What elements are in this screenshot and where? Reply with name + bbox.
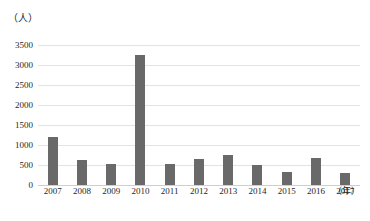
bar-slot [38,45,67,185]
x-axis-tick-label: 2016 [301,186,330,197]
bar[interactable] [48,137,58,185]
bar-slot [67,45,96,185]
x-axis-tick-label: 2012 [184,186,213,197]
x-axis-tick-label: 2011 [155,186,184,197]
x-axis-tick-label: 2008 [67,186,96,197]
y-axis-tick-label: 0 [29,181,34,190]
bar-slot [331,45,360,185]
bar[interactable] [194,159,204,185]
plot-area: 0500100015002000250030003500 [38,45,360,185]
y-axis-tick-label: 1500 [15,121,33,130]
bar[interactable] [311,158,321,185]
bar-slot [184,45,213,185]
y-axis-tick-label: 500 [20,161,34,170]
y-axis-tick-label: 2000 [15,101,33,110]
bar[interactable] [165,164,175,185]
bar-slot [301,45,330,185]
bar[interactable] [340,173,350,185]
x-axis-tick-label: 2014 [243,186,272,197]
bar[interactable] [223,155,233,185]
bar[interactable] [106,164,116,185]
x-axis-tick-label: 2010 [126,186,155,197]
bar-slot [97,45,126,185]
y-axis-tick-label: 1000 [15,141,33,150]
bar-chart: （人） 0500100015002000250030003500 2007200… [0,0,370,221]
bar-slot [214,45,243,185]
x-axis-tick-label: 2013 [214,186,243,197]
y-axis-tick-label: 3000 [15,61,33,70]
x-axis-tick-label: 2015 [272,186,301,197]
bar[interactable] [282,172,292,185]
bar-slot [272,45,301,185]
bar[interactable] [252,165,262,185]
x-axis-tick-label: 2009 [97,186,126,197]
y-axis-unit-label: （人） [8,10,38,25]
y-axis-tick-label: 2500 [15,81,33,90]
x-axis-tick-label: 2007 [38,186,67,197]
y-axis-tick-label: 3500 [15,41,33,50]
bar-slot [126,45,155,185]
x-axis-tick-labels: 2007200820092010201120122013201420152016… [38,186,360,197]
bar[interactable] [77,160,87,185]
bar[interactable] [135,55,145,185]
bar-slot [243,45,272,185]
bar-series [38,45,360,185]
bar-slot [155,45,184,185]
x-axis-unit-label: （年） [333,186,360,197]
